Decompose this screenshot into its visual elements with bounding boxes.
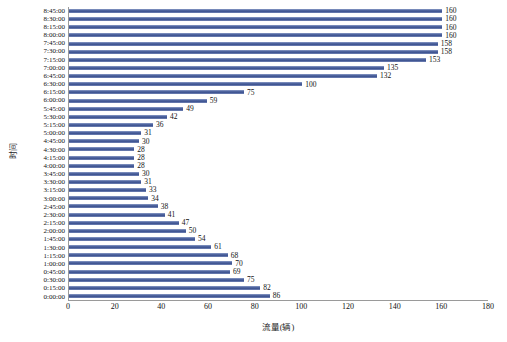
bar — [69, 115, 167, 119]
x-axis-title: 流量(辆) — [68, 320, 488, 332]
bar-value-label: 160 — [445, 15, 456, 23]
bar — [69, 82, 302, 86]
bar-row: 160 — [69, 15, 488, 23]
y-axis-tick-label: 7:15:00 — [18, 56, 68, 64]
bar-value-label: 30 — [142, 138, 150, 146]
bar — [69, 123, 153, 127]
x-axis-tick-label: 160 — [435, 302, 447, 311]
bar — [69, 99, 207, 103]
y-axis-title-text: 时间 — [7, 142, 18, 158]
y-axis-tick-label: 6:00:00 — [18, 97, 68, 105]
bar-row: 41 — [69, 211, 488, 219]
bar — [69, 270, 230, 274]
bar-row: 28 — [69, 162, 488, 170]
bar — [69, 213, 165, 217]
bar-row: 42 — [69, 113, 488, 121]
bar-row: 50 — [69, 227, 488, 235]
bar — [69, 188, 146, 192]
bar-row: 47 — [69, 219, 488, 227]
bar — [69, 74, 377, 78]
bar — [69, 294, 270, 298]
bar-row: 135 — [69, 64, 488, 72]
bar-value-label: 69 — [233, 268, 241, 276]
bar-row: 28 — [69, 145, 488, 153]
bar-value-label: 68 — [231, 252, 239, 260]
bar-value-label: 158 — [441, 48, 452, 56]
bar — [69, 33, 442, 37]
bar-row: 100 — [69, 80, 488, 88]
bar-row: 70 — [69, 259, 488, 267]
bar-value-label: 153 — [429, 56, 440, 64]
bar — [69, 237, 195, 241]
bar-row: 158 — [69, 40, 488, 48]
bar-value-label: 50 — [189, 227, 197, 235]
bar — [69, 245, 211, 249]
bar — [69, 58, 426, 62]
bar-row: 160 — [69, 23, 488, 31]
bar — [69, 261, 232, 265]
bar-row: 68 — [69, 251, 488, 259]
bar-value-label: 36 — [156, 121, 164, 129]
bar — [69, 172, 139, 176]
bar — [69, 286, 260, 290]
x-axis-tick-label: 0 — [66, 302, 70, 311]
bar-value-label: 34 — [151, 195, 159, 203]
y-axis-tick-label: 4:45:00 — [18, 138, 68, 146]
x-axis-tick-label: 40 — [157, 302, 165, 311]
bar-value-label: 42 — [170, 113, 178, 121]
bar-value-label: 75 — [247, 89, 255, 97]
bar-value-label: 82 — [263, 284, 271, 292]
bar-value-label: 160 — [445, 24, 456, 32]
bar-value-label: 54 — [198, 235, 206, 243]
y-axis-tick-labels: 8:45:008:30:008:15:008:00:007:45:007:30:… — [18, 7, 68, 301]
bar — [69, 180, 141, 184]
bar — [69, 278, 244, 282]
bar-row: 132 — [69, 72, 488, 80]
x-axis-tick-labels: 020406080100120140160180 — [68, 302, 488, 316]
x-axis-tick-label: 60 — [204, 302, 212, 311]
bar — [69, 50, 438, 54]
bar-row: 36 — [69, 121, 488, 129]
bar — [69, 9, 442, 13]
bar — [69, 156, 134, 160]
bar — [69, 204, 158, 208]
bar-row: 61 — [69, 243, 488, 251]
bar-value-label: 132 — [380, 72, 391, 80]
bar — [69, 196, 148, 200]
bar — [69, 131, 141, 135]
bar-value-label: 49 — [186, 105, 194, 113]
bar-row: 54 — [69, 235, 488, 243]
bar-value-label: 61 — [214, 243, 222, 251]
bar-row: 38 — [69, 202, 488, 210]
bar-row: 158 — [69, 48, 488, 56]
bar-row: 28 — [69, 154, 488, 162]
bar-row: 31 — [69, 178, 488, 186]
bar-value-label: 31 — [144, 129, 152, 137]
bar-row: 160 — [69, 31, 488, 39]
y-axis-tick-label: 8:45:00 — [18, 7, 68, 15]
bar — [69, 253, 228, 257]
bar-value-label: 41 — [168, 211, 176, 219]
y-axis-tick-label: 3:00:00 — [18, 195, 68, 203]
bar-row: 33 — [69, 186, 488, 194]
bar-row: 160 — [69, 7, 488, 15]
x-axis-tick-label: 100 — [295, 302, 307, 311]
bar-row: 49 — [69, 105, 488, 113]
y-axis-tick-label: 0:15:00 — [18, 285, 68, 293]
y-axis-tick-label: 0:00:00 — [18, 293, 68, 301]
bar-value-label: 100 — [305, 81, 316, 89]
bar — [69, 66, 384, 70]
x-axis-tick-label: 80 — [251, 302, 259, 311]
x-axis-tick-label: 140 — [389, 302, 401, 311]
bar-value-label: 86 — [273, 292, 281, 300]
bar-row: 75 — [69, 276, 488, 284]
bar — [69, 139, 139, 143]
bar-row: 75 — [69, 88, 488, 96]
bar-value-label: 33 — [149, 186, 157, 194]
bar — [69, 164, 134, 168]
bar — [69, 90, 244, 94]
plot-area: 1601601601601581581531351321007559494236… — [68, 7, 488, 301]
bar-chart-figure: 时间 8:45:008:30:008:15:008:00:007:45:007:… — [0, 0, 507, 342]
y-axis-tick-label: 5:45:00 — [18, 105, 68, 113]
bar — [69, 107, 183, 111]
